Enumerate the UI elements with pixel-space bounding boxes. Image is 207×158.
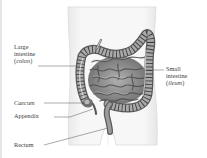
label-small-intestine-line1: Small [166,65,187,72]
small-intestine-mass [88,56,148,104]
label-large-intestine-line3: (colon) [14,57,35,64]
intestine-diagram: Large intestine (colon) Small intestine … [0,0,207,158]
label-small-intestine-line2: intestine [166,72,187,79]
label-large-intestine: Large intestine (colon) [14,43,35,65]
label-caecum-text: Caecum [14,99,35,106]
label-caecum: Caecum [14,99,35,106]
label-rectum-text: Rectum [14,141,34,148]
label-large-intestine-line2: intestine [14,50,35,57]
label-colon: colon [16,57,30,64]
label-large-intestine-line1: Large [14,43,35,50]
label-appendix: Appendix [14,112,39,119]
label-appendix-text: Appendix [14,112,39,119]
label-rectum: Rectum [14,141,34,148]
label-small-intestine: Small intestine (ileum) [166,65,187,87]
label-ileum: ileum [168,79,182,86]
label-small-intestine-line3: (ileum) [166,79,187,86]
